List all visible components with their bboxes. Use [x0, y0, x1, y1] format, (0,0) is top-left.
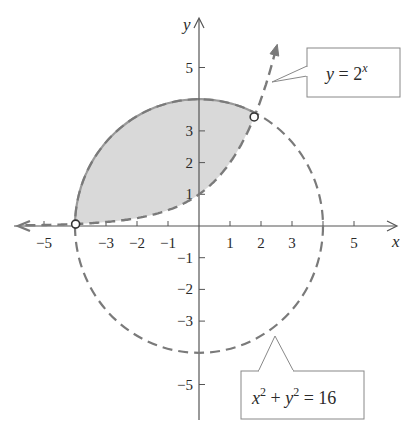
y-tick-label: −2 [177, 281, 193, 297]
x-tick-label: −1 [160, 235, 176, 251]
x-axis-label: x [391, 232, 400, 251]
x-tick-label: 2 [257, 235, 265, 251]
x-tick-label: 5 [350, 235, 358, 251]
y-tick-label: 3 [186, 123, 194, 139]
x-tick-label: −5 [36, 235, 52, 251]
y-tick-label: 5 [186, 60, 194, 76]
y-tick-label: −5 [177, 377, 193, 393]
exponential-equation: y = 2x [324, 61, 368, 84]
y-tick-label: −1 [177, 250, 193, 266]
graph-figure: −5−3−2−11235 5321−1−2−3−5 x y y = 2x [0, 0, 410, 441]
x-tick-label: 1 [226, 235, 234, 251]
x-tick-label: −2 [129, 235, 145, 251]
x-tick-label: 3 [288, 235, 296, 251]
y-tick-label: 2 [186, 155, 194, 171]
intersection-point-right [250, 113, 258, 121]
circle-label-box: x2 + y2 = 16 [241, 336, 364, 419]
x-tick-label: −3 [98, 235, 114, 251]
intersection-point-left [72, 220, 80, 228]
exponential-label-box: y = 2x [272, 48, 400, 97]
exponential-top-arrow-icon [270, 44, 279, 56]
y-axis [194, 18, 204, 420]
y-tick-label: −3 [177, 313, 193, 329]
y-axis-label: y [181, 15, 191, 34]
shaded-region [75, 99, 255, 224]
